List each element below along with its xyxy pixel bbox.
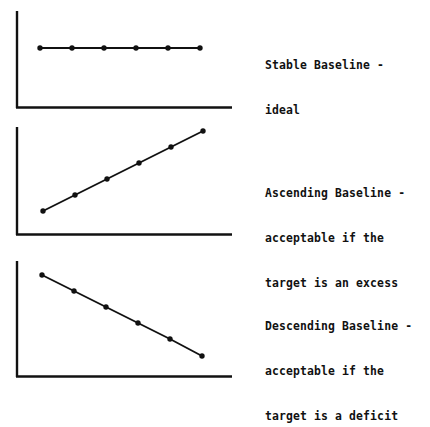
data-line — [43, 131, 203, 211]
caption-line: acceptable if the — [265, 231, 405, 246]
caption-descending-baseline: Descending Baseline - acceptable if the … — [265, 289, 412, 427]
caption-line: Ascending Baseline - — [265, 186, 405, 201]
data-line — [42, 275, 202, 356]
caption-line: target is a deficit — [265, 409, 412, 424]
panel-stable-baseline: Stable Baseline - ideal — [0, 0, 430, 118]
caption-line: Descending Baseline - — [265, 319, 412, 334]
caption-line: acceptable if the — [265, 364, 412, 379]
chart-descending-baseline — [0, 246, 245, 397]
caption-line: Stable Baseline - — [265, 58, 384, 73]
axis-spines — [16, 11, 232, 108]
axis-spines — [16, 127, 232, 235]
caption-line: ideal — [265, 103, 384, 118]
chart-ascending-baseline — [0, 118, 245, 246]
panel-descending-baseline: Descending Baseline - acceptable if the … — [0, 246, 430, 397]
chart-stable-baseline — [0, 0, 245, 118]
panel-ascending-baseline: Ascending Baseline - acceptable if the t… — [0, 118, 430, 246]
